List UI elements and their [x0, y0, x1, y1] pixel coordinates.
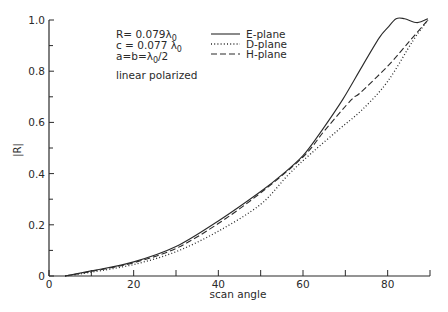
y-tick-label: 0: [38, 270, 45, 282]
polarization-annotation: linear polarized: [116, 69, 197, 81]
y-axis-label: |R|: [12, 143, 24, 157]
legend: E-planeD-planeH-plane: [211, 28, 287, 60]
y-tick-label: 1.0: [28, 14, 45, 26]
parameter-annotation: a=b=λ0/2: [116, 50, 168, 65]
x-axis-label: scan angle: [210, 288, 267, 300]
x-tick-label: 60: [296, 278, 309, 290]
annotation-block: R= 0.079λ0c = 0.077 λ0a=b=λ0/2linear pol…: [116, 28, 197, 81]
y-axis: 00.20.40.60.81.0: [28, 14, 54, 282]
x-axis: 020406080: [46, 270, 430, 290]
chart: 00.20.40.60.81.0 020406080 |R| scan angl…: [0, 0, 448, 312]
x-tick-label: 80: [381, 278, 394, 290]
y-tick-label: 0.2: [28, 219, 45, 231]
x-tick-label: 0: [46, 278, 53, 290]
y-tick-label: 0.6: [28, 116, 45, 128]
legend-label: H-plane: [246, 48, 287, 60]
y-tick-label: 0.4: [28, 168, 45, 180]
x-tick-label: 20: [127, 278, 140, 290]
y-tick-label: 0.8: [28, 65, 45, 77]
